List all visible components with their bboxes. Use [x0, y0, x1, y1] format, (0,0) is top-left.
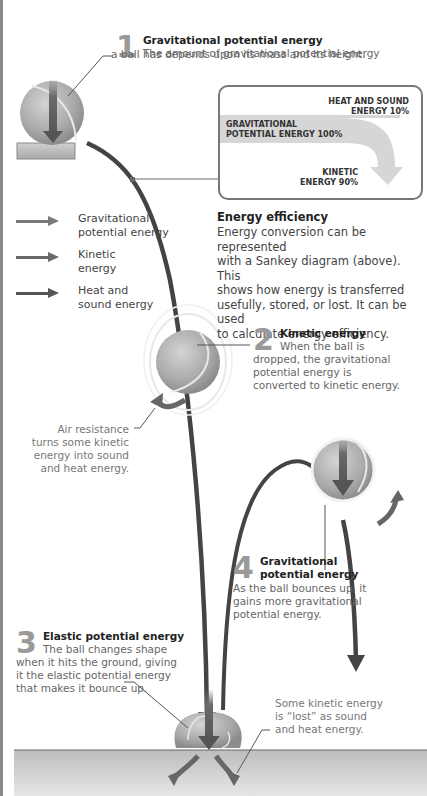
arrow-right-icon — [16, 216, 60, 226]
legend-item-gravitational: Gravitational potential energy — [16, 212, 169, 240]
legend-item-heat-sound: Heat and sound energy — [16, 284, 153, 312]
step-2-callout: 2 Kinetic energy When the ball is — [253, 327, 423, 353]
step-4-callout: 4 Gravitational potential energy — [233, 555, 413, 581]
platform — [17, 143, 75, 159]
legend-item-kinetic: Kinetic energy — [16, 248, 116, 276]
step-4-number: 4 — [233, 555, 254, 581]
step-1-text-line2: a ball has depends upon its mass and its… — [111, 48, 411, 61]
energy-efficiency-section: Energy efficiency Energy conversion can … — [217, 210, 427, 341]
ball-4 — [312, 439, 374, 501]
step-1-title: Gravitational potential energy — [116, 34, 416, 47]
sankey-diagram: HEAT AND SOUND ENERGY 10% GRAVITATIONAL … — [218, 85, 423, 200]
step-4-text: As the ball bounces up, it gains more gr… — [233, 582, 413, 621]
ground — [14, 750, 427, 796]
step-3-callout: 3 Elastic potential energy The ball chan… — [16, 630, 196, 656]
air-resistance-note: Air resistance turns some kinetic energy… — [30, 423, 129, 475]
arrow-right-icon — [16, 288, 60, 298]
step-2-text: dropped, the gravitational potential ene… — [253, 353, 423, 392]
ball-3 — [174, 690, 241, 750]
efficiency-title: Energy efficiency — [217, 210, 427, 225]
step-2-number: 2 — [253, 327, 274, 353]
step-3-number: 3 — [16, 630, 37, 656]
sankey-input-label: GRAVITATIONAL POTENTIAL ENERGY 100% — [226, 120, 342, 140]
lost-energy-note: Some kinetic energy is “lost” as sound a… — [275, 697, 415, 736]
arrow-right-icon — [16, 252, 60, 262]
ball-1 — [20, 80, 84, 145]
sankey-loss-label: HEAT AND SOUND ENERGY 10% — [328, 97, 409, 117]
step-3-text: when it hits the ground, giving it the e… — [16, 656, 196, 695]
sankey-output-label: KINETIC ENERGY 90% — [290, 168, 358, 188]
